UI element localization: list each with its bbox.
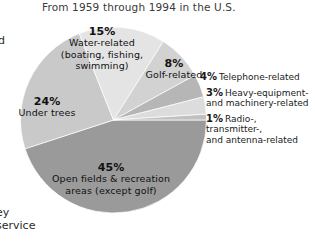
- chart-title: From 1959 through 1994 in the U.S.: [42, 1, 282, 13]
- slice-percent-open-fields: 45%: [98, 161, 125, 174]
- slice-desc-open-fields-line2: areas (except golf): [28, 185, 194, 196]
- lightning-strike-location-figure: d ey service From 1959 through 1994 in t…: [0, 0, 315, 250]
- slice-desc-under-trees: Under trees: [6, 107, 88, 118]
- slice-label-open-fields: 45% Open fields & recreation areas (exce…: [28, 162, 194, 196]
- slice-percent-water-related: 15%: [89, 25, 116, 38]
- cropped-text-bottom-left-line1: ey: [0, 206, 9, 219]
- legend-right: 4%Telephone-related 3%Heavy-equipment- a…: [200, 72, 315, 146]
- legend-item-telephone-related: 4%Telephone-related: [200, 72, 315, 83]
- slice-percent-golf-related: 8%: [165, 57, 184, 70]
- legend-label-heavy-equipment-related-line2: and machinery-related: [206, 98, 308, 108]
- legend-item-heavy-equipment-related: 3%Heavy-equipment- and machinery-related: [200, 88, 315, 109]
- slice-percent-under-trees: 24%: [34, 95, 61, 108]
- legend-percent-heavy-equipment-related: 3%: [206, 87, 223, 98]
- legend-label-telephone-related: Telephone-related: [219, 72, 300, 82]
- slice-desc-open-fields-line1: Open fields & recreation: [28, 173, 194, 184]
- legend-percent-telephone-related: 4%: [200, 71, 217, 82]
- legend-label-heavy-equipment-related-line1: Heavy-equipment-: [225, 88, 309, 98]
- slice-desc-water-related-line1: Water-related: [42, 37, 162, 48]
- legend-item-radio-antenna-related: 1%Radio-, transmitter-, and antenna-rela…: [200, 114, 315, 146]
- slice-label-under-trees: 24% Under trees: [6, 96, 88, 119]
- legend-label-radio-antenna-related-line2: and antenna-related: [206, 135, 298, 145]
- cropped-text-top-left: d: [0, 34, 12, 47]
- legend-percent-radio-antenna-related: 1%: [206, 113, 223, 124]
